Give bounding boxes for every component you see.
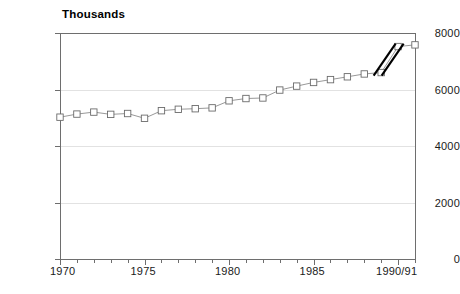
data-point-marker — [141, 115, 147, 121]
data-point-marker — [327, 76, 333, 82]
data-point-marker — [310, 79, 316, 85]
data-point-marker — [412, 42, 418, 48]
data-point-marker — [226, 98, 232, 104]
series-line — [60, 45, 415, 118]
data-point-marker — [344, 74, 350, 80]
data-point-marker — [260, 95, 266, 101]
data-point-marker — [209, 105, 215, 111]
data-point-marker — [175, 106, 181, 112]
data-point-marker — [192, 106, 198, 112]
data-point-marker — [91, 109, 97, 115]
data-point-marker — [158, 107, 164, 113]
data-point-marker — [57, 114, 63, 120]
series-break-mark — [374, 44, 404, 76]
data-point-marker — [361, 71, 367, 77]
data-point-marker — [293, 83, 299, 89]
chart-container: Thousands 02000400060008000 197019751980… — [0, 0, 460, 294]
data-point-marker — [74, 111, 80, 117]
series-markers — [57, 42, 418, 122]
data-point-marker — [124, 110, 130, 116]
data-point-marker — [108, 111, 114, 117]
series-layer — [0, 0, 460, 294]
data-point-marker — [277, 87, 283, 93]
data-point-marker — [243, 95, 249, 101]
